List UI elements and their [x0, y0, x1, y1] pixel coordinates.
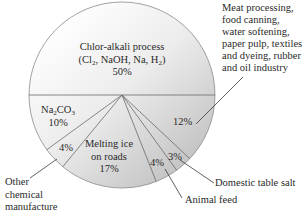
chlor-alkali-products: (Cl2, NaOH, Na, H2) — [70, 54, 174, 67]
slice-pct-domestic-salt: 3% — [168, 151, 182, 164]
slice-label-chlor-alkali: Chlor-alkali process (Cl2, NaOH, Na, H2)… — [70, 41, 174, 79]
na2co3-pct: 10% — [38, 117, 78, 130]
slice-label-na2co3: Na2CO3 10% — [38, 104, 78, 129]
callout-domestic-salt: Domestic table salt — [215, 177, 295, 190]
callout-animal-feed: Animal feed — [185, 194, 237, 207]
na2co3-formula: Na2CO3 — [38, 104, 78, 117]
slice-pct-industry: 12% — [173, 116, 192, 129]
callout-other-chemical: Other chemical manufacture — [5, 176, 57, 214]
slice-label-melting-ice: Melting ice on roads 17% — [82, 138, 136, 176]
chlor-alkali-title: Chlor-alkali process — [70, 41, 174, 54]
slice-pct-other-chemical: 4% — [59, 142, 73, 155]
slice-pct-animal-feed: 4% — [150, 157, 164, 170]
chlor-alkali-pct: 50% — [70, 66, 174, 79]
callout-industry: Meat processing, food canning, water sof… — [222, 2, 302, 74]
